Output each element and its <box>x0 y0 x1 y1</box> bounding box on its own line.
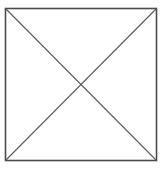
figure-canvas <box>0 0 164 170</box>
square-with-diagonals-figure <box>0 0 164 170</box>
